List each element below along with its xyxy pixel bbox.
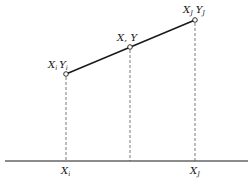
point-j-marker bbox=[193, 18, 198, 23]
axis-label-xj: XJ bbox=[189, 165, 200, 178]
axis-label-xi: Xi bbox=[60, 165, 70, 178]
point-mid-marker bbox=[128, 45, 133, 50]
interpolation-diagram: XiYi X, Y XJYJ Xi XJ bbox=[0, 0, 252, 179]
point-i-marker bbox=[64, 72, 69, 77]
point-mid-label: X, Y bbox=[116, 32, 138, 43]
point-j-label: XJYJ bbox=[182, 4, 205, 17]
point-i-label: XiYi bbox=[47, 59, 68, 72]
